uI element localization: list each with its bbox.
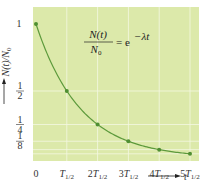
y-axis-arrow-icon: [2, 78, 6, 104]
data-point: [96, 123, 100, 127]
x-tick-label: 4T1/2: [149, 168, 169, 181]
svg-text:2: 2: [18, 90, 23, 101]
y-tick-label: 12: [16, 80, 24, 101]
data-point: [126, 139, 130, 143]
y-tick-label: 18: [16, 130, 24, 151]
data-point: [188, 152, 192, 156]
x-axis-label: t: [184, 171, 187, 182]
decay-chart: N(t) N0 = e −λt 0T1/22T1/23T1/24T1/25T1/…: [0, 0, 224, 190]
y-axis-ticks: 1121418: [16, 18, 24, 151]
data-point: [34, 22, 38, 26]
x-tick-label: 0: [34, 168, 39, 179]
equation-numerator: N(t): [88, 28, 107, 41]
y-axis-label: N(t)/N0: [0, 47, 13, 78]
svg-text:8: 8: [18, 140, 23, 151]
x-tick-label: T1/2: [60, 168, 75, 181]
equation-rhs: = e: [116, 36, 130, 48]
plot-area: [33, 7, 199, 161]
x-tick-label: 2T1/2: [88, 168, 108, 181]
x-tick-label: 3T1/2: [119, 168, 139, 181]
equation-exponent: −λt: [134, 30, 150, 42]
y-tick-label: 1: [17, 18, 22, 29]
data-point: [157, 148, 161, 152]
data-point: [65, 89, 69, 93]
svg-text:N(t)/N0: N(t)/N0: [0, 47, 13, 78]
